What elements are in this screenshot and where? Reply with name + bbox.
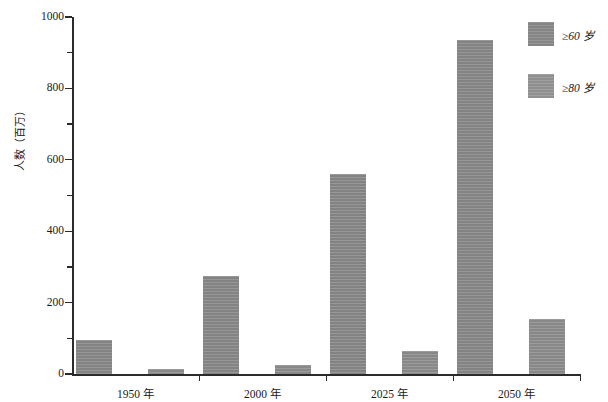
x-axis-tick bbox=[580, 374, 581, 381]
y-axis-tick-label: 0 bbox=[24, 368, 64, 380]
y-axis-tick-minor bbox=[67, 195, 72, 196]
legend-swatch-80-icon bbox=[528, 74, 554, 98]
y-axis-tick-major bbox=[65, 16, 72, 17]
y-axis-tick-major bbox=[65, 88, 72, 89]
y-axis-tick-label: 400 bbox=[24, 225, 64, 237]
legend-item-80[interactable]: ≥80 岁 bbox=[528, 74, 606, 126]
x-axis-tick bbox=[199, 374, 200, 381]
bar-2050年-ge60 bbox=[457, 40, 493, 374]
legend-item-60[interactable]: ≥60 岁 bbox=[528, 22, 606, 74]
bar-2025年-ge80 bbox=[402, 351, 438, 374]
x-axis-label: 2050 年 bbox=[457, 385, 577, 401]
x-axis-label: 1950 年 bbox=[76, 385, 196, 401]
x-axis-label: 2025 年 bbox=[330, 385, 450, 401]
bar-2000年-ge80 bbox=[275, 365, 311, 374]
y-axis-tick-label: 600 bbox=[24, 154, 64, 166]
y-axis-tick-minor bbox=[67, 266, 72, 267]
bar-2050年-ge80 bbox=[529, 319, 565, 374]
legend-swatch-60-icon bbox=[528, 22, 554, 46]
plot-area: 02004006008001000 1950 年2000 年2025 年2050… bbox=[72, 17, 580, 374]
bar-2025年-ge60 bbox=[330, 174, 366, 374]
bar-2000年-ge60 bbox=[203, 276, 239, 374]
y-axis-tick-major bbox=[65, 231, 72, 232]
y-axis-tick-label: 1000 bbox=[24, 11, 64, 23]
bar-1950年-ge80 bbox=[148, 369, 184, 374]
y-axis-tick-label: 200 bbox=[24, 297, 64, 309]
x-axis-tick bbox=[453, 374, 454, 381]
chart-legend: ≥60 岁 ≥80 岁 bbox=[528, 22, 606, 126]
y-axis-tick-label: 800 bbox=[24, 83, 64, 95]
y-axis-tick-minor bbox=[67, 52, 72, 53]
bar-chart: 人数（百万） 02004006008001000 1950 年2000 年202… bbox=[0, 0, 608, 402]
x-axis-label: 2000 年 bbox=[203, 385, 323, 401]
y-axis-tick-major bbox=[65, 373, 72, 374]
y-axis-line bbox=[72, 17, 74, 374]
legend-label-80: ≥80 岁 bbox=[562, 79, 594, 95]
legend-label-60: ≥60 岁 bbox=[562, 27, 594, 43]
x-axis-tick bbox=[326, 374, 327, 381]
y-axis-tick-minor bbox=[67, 338, 72, 339]
y-axis-tick-minor bbox=[67, 123, 72, 124]
bar-1950年-ge60 bbox=[76, 340, 112, 374]
y-axis-tick-major bbox=[65, 159, 72, 160]
y-axis-tick-major bbox=[65, 302, 72, 303]
